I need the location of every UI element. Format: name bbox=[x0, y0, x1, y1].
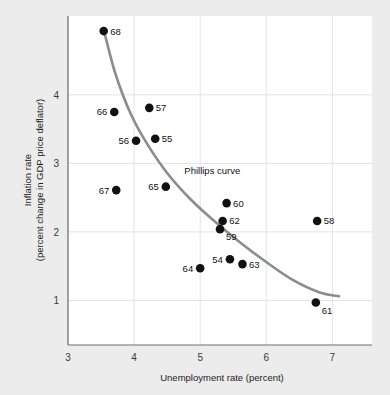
data-point bbox=[99, 27, 108, 36]
data-point bbox=[112, 186, 121, 195]
data-point bbox=[238, 260, 247, 269]
y-tick-label: 1 bbox=[53, 295, 59, 306]
data-point-label: 68 bbox=[110, 26, 121, 37]
y-tick-labels: 1234 bbox=[53, 90, 59, 307]
data-point-label: 63 bbox=[249, 259, 260, 270]
y-tick-label: 3 bbox=[53, 158, 59, 169]
y-axis-title-line1: Inflation rate bbox=[22, 154, 33, 206]
data-point bbox=[218, 217, 227, 226]
y-tick-label: 4 bbox=[53, 90, 59, 101]
data-point-label: 59 bbox=[226, 231, 237, 242]
y-axis-title-line2: (percent change in GDP price deflator) bbox=[34, 99, 45, 261]
data-point bbox=[222, 199, 231, 208]
y-tick-label: 2 bbox=[53, 227, 59, 238]
data-point-label: 60 bbox=[233, 198, 244, 209]
data-point bbox=[312, 298, 321, 307]
data-point bbox=[151, 134, 160, 143]
data-point-label: 64 bbox=[183, 263, 194, 274]
data-point bbox=[145, 104, 154, 113]
phillips-curve-annotation: Phillips curve bbox=[184, 165, 240, 176]
data-point-label: 56 bbox=[118, 135, 129, 146]
x-tick-label: 6 bbox=[263, 352, 269, 363]
data-point bbox=[313, 217, 322, 226]
x-tick-label: 5 bbox=[197, 352, 203, 363]
data-point bbox=[110, 108, 119, 117]
data-point-label: 57 bbox=[156, 102, 167, 113]
phillips-curve-figure: 34567 1234 68665756556765606259585463646… bbox=[0, 0, 390, 395]
x-axis-title: Unemployment rate (percent) bbox=[160, 372, 284, 383]
chart-canvas: 34567 1234 68665756556765606259585463646… bbox=[0, 0, 390, 395]
data-point bbox=[196, 264, 205, 273]
data-point-label: 58 bbox=[324, 215, 335, 226]
x-tick-labels: 34567 bbox=[65, 352, 335, 363]
x-tick-label: 3 bbox=[65, 352, 71, 363]
x-tick-label: 7 bbox=[330, 352, 336, 363]
data-point-label: 62 bbox=[229, 215, 240, 226]
data-point-label: 55 bbox=[162, 133, 173, 144]
data-point-label: 61 bbox=[322, 305, 333, 316]
data-point-label: 66 bbox=[97, 106, 108, 117]
data-point-label: 54 bbox=[212, 254, 223, 265]
data-point bbox=[162, 182, 171, 191]
data-point bbox=[132, 136, 141, 145]
data-point bbox=[216, 225, 225, 234]
x-tick-label: 4 bbox=[131, 352, 137, 363]
data-point-label: 67 bbox=[99, 185, 110, 196]
data-point bbox=[226, 255, 235, 264]
data-point-label: 65 bbox=[148, 181, 159, 192]
